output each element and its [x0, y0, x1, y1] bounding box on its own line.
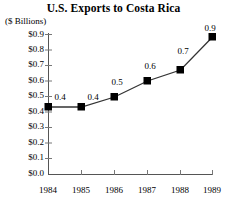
data-point-markers — [45, 33, 217, 111]
data-point-marker — [177, 66, 185, 74]
data-point-marker — [45, 103, 53, 111]
data-series-line — [49, 37, 213, 107]
data-point-marker — [209, 33, 217, 41]
data-point-marker — [78, 103, 86, 111]
data-point-marker — [144, 77, 152, 85]
data-point-marker — [111, 93, 119, 101]
plot-area — [0, 0, 227, 203]
chart-figure: U.S. Exports to Costa Rica ($ Billions) … — [0, 0, 227, 203]
